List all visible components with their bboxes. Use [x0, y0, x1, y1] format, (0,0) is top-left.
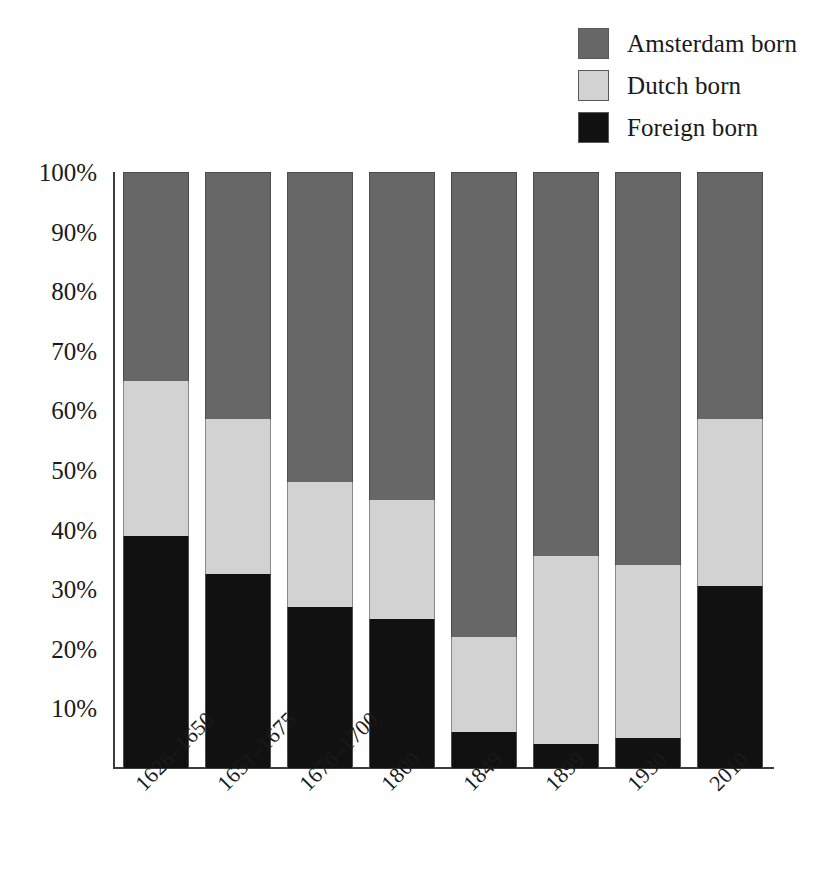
x-tick-wrap-1849: 1849: [451, 770, 517, 870]
bar-segment-amsterdam-born-1930[interactable]: [615, 172, 681, 565]
bar-segment-foreign-born-1800[interactable]: [369, 619, 435, 768]
legend-label-foreign-born: Foreign born: [627, 115, 758, 140]
legend-label-dutch-born: Dutch born: [627, 73, 741, 98]
legend-swatch-foreign-icon: [578, 112, 609, 143]
bar-segment-dutch-born-1930[interactable]: [615, 565, 681, 738]
x-axis-tick-labels: 1626–16501651–16751676–17001800184918991…: [113, 770, 773, 870]
bar-segment-amsterdam-born-2010[interactable]: [697, 172, 763, 419]
bar-column-1899[interactable]: [533, 172, 599, 768]
bar-segment-dutch-born-1626–1650[interactable]: [123, 381, 189, 536]
x-tick-wrap-1626–1650: 1626–1650: [123, 770, 189, 870]
x-tick-wrap-1676–1700: 1676–1700: [287, 770, 353, 870]
y-tick-40%: 40%: [51, 517, 97, 542]
legend-item-foreign-born[interactable]: Foreign born: [578, 106, 797, 148]
bar-segment-dutch-born-1651–1675[interactable]: [205, 419, 271, 574]
bar-segment-amsterdam-born-1899[interactable]: [533, 172, 599, 556]
bar-group: [113, 172, 773, 768]
legend-item-dutch-born[interactable]: Dutch born: [578, 64, 797, 106]
y-tick-60%: 60%: [51, 398, 97, 423]
chart-legend: Amsterdam born Dutch born Foreign born: [578, 22, 797, 148]
y-tick-80%: 80%: [51, 279, 97, 304]
bar-column-1626–1650[interactable]: [123, 172, 189, 768]
y-tick-30%: 30%: [51, 577, 97, 602]
bar-segment-amsterdam-born-1800[interactable]: [369, 172, 435, 500]
bar-segment-dutch-born-1800[interactable]: [369, 500, 435, 619]
bar-segment-amsterdam-born-1849[interactable]: [451, 172, 517, 637]
y-tick-50%: 50%: [51, 458, 97, 483]
x-tick-wrap-1930: 1930: [615, 770, 681, 870]
bar-segment-dutch-born-1676–1700[interactable]: [287, 482, 353, 607]
legend-swatch-dutch-icon: [578, 70, 609, 101]
legend-item-amsterdam-born[interactable]: Amsterdam born: [578, 22, 797, 64]
bar-segment-dutch-born-2010[interactable]: [697, 419, 763, 586]
y-tick-20%: 20%: [51, 636, 97, 661]
bar-column-1930[interactable]: [615, 172, 681, 768]
bar-segment-amsterdam-born-1626–1650[interactable]: [123, 172, 189, 381]
bar-column-1800[interactable]: [369, 172, 435, 768]
bar-segment-foreign-born-2010[interactable]: [697, 586, 763, 768]
bar-segment-amsterdam-born-1651–1675[interactable]: [205, 172, 271, 419]
stacked-bar-chart: Amsterdam born Dutch born Foreign born 1…: [0, 0, 827, 870]
y-tick-90%: 90%: [51, 219, 97, 244]
x-tick-wrap-1651–1675: 1651–1675: [205, 770, 271, 870]
x-tick-wrap-2010: 2010: [697, 770, 763, 870]
legend-swatch-amsterdam-icon: [578, 28, 609, 59]
x-tick-wrap-1899: 1899: [533, 770, 599, 870]
plot-area: 100%90%80%70%60%50%40%30%20%10%: [113, 172, 773, 768]
y-tick-100%: 100%: [39, 160, 97, 185]
y-tick-70%: 70%: [51, 338, 97, 363]
y-tick-10%: 10%: [51, 696, 97, 721]
bar-column-1849[interactable]: [451, 172, 517, 768]
bar-segment-dutch-born-1899[interactable]: [533, 556, 599, 744]
x-tick-wrap-1800: 1800: [369, 770, 435, 870]
bar-segment-dutch-born-1849[interactable]: [451, 637, 517, 732]
legend-label-amsterdam-born: Amsterdam born: [627, 31, 797, 56]
bar-column-1676–1700[interactable]: [287, 172, 353, 768]
bar-column-2010[interactable]: [697, 172, 763, 768]
bar-column-1651–1675[interactable]: [205, 172, 271, 768]
bar-segment-amsterdam-born-1676–1700[interactable]: [287, 172, 353, 482]
